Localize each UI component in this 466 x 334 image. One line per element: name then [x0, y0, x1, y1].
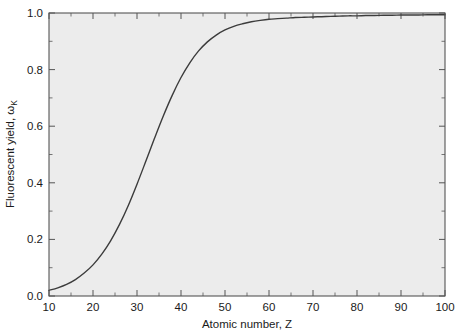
x-tick-label: 30: [131, 301, 144, 313]
x-tick-label: 50: [219, 301, 232, 313]
x-tick-label: 100: [435, 301, 454, 313]
y-axis-label-main: Fluorescent yield, ω: [4, 106, 16, 208]
y-axis-label-subscript: K: [9, 100, 19, 106]
x-tick-label: 10: [43, 301, 56, 313]
y-tick-label: 0.2: [27, 233, 43, 245]
y-tick-label: 0.0: [27, 290, 43, 302]
y-tick-label: 0.4: [27, 177, 44, 189]
chart-figure: 102030405060708090100 0.00.20.40.60.81.0…: [0, 0, 466, 334]
x-tick-label: 40: [175, 301, 188, 313]
chart-canvas: 102030405060708090100 0.00.20.40.60.81.0…: [0, 0, 466, 334]
plot-area-background: [49, 13, 445, 296]
x-tick-label: 90: [395, 301, 408, 313]
y-tick-label: 1.0: [27, 7, 43, 19]
x-axis-label: Atomic number, Z: [202, 318, 292, 330]
y-tick-label: 0.8: [27, 64, 43, 76]
x-tick-label: 80: [351, 301, 364, 313]
x-tick-label: 20: [87, 301, 100, 313]
x-tick-label: 60: [263, 301, 276, 313]
y-tick-label: 0.6: [27, 120, 43, 132]
x-tick-label: 70: [307, 301, 320, 313]
